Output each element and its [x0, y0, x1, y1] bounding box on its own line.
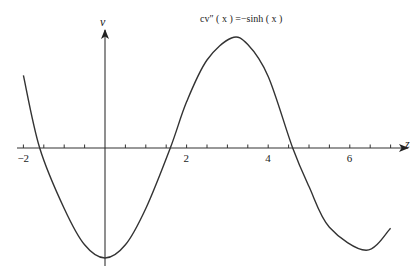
- chart-title: cv″ ( x ) =−sinh ( x ): [200, 14, 282, 24]
- x-axis-label: z: [405, 138, 410, 150]
- x-tick-label: −2: [17, 153, 29, 164]
- x-tick-label: 2: [184, 153, 190, 164]
- x-tick-label: 4: [265, 153, 271, 164]
- y-axis-label: v: [100, 16, 105, 28]
- x-tick-label: 6: [347, 153, 353, 164]
- chart: [0, 0, 418, 278]
- x-axis: [17, 145, 408, 149]
